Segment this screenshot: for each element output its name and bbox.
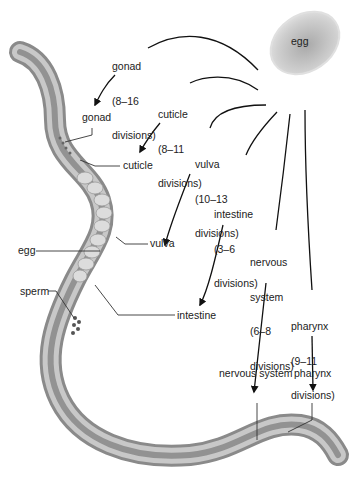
nervous-system-anatomy-label: nervous system xyxy=(219,368,293,380)
intestine-anatomy-label: intestine xyxy=(177,310,216,322)
gonad-division-label: gonad (8–16 divisions) xyxy=(112,38,156,153)
egg-anatomy-label: egg xyxy=(18,245,36,257)
cuticle-anatomy-label: cuticle xyxy=(123,160,153,172)
sperm-cluster xyxy=(71,316,81,335)
sperm-anatomy-label: sperm xyxy=(20,286,49,298)
gonad-anatomy-label: gonad xyxy=(82,112,111,124)
nervous-system-division-label: nervous system (6–8 divisions) xyxy=(250,234,294,384)
egg-label: egg xyxy=(291,36,309,48)
pharynx-division-label: pharynx (9–11 divisions) xyxy=(291,298,335,413)
pharynx-anatomy-label: pharynx xyxy=(294,368,331,380)
vulva-anatomy-label: vulva xyxy=(150,238,175,250)
